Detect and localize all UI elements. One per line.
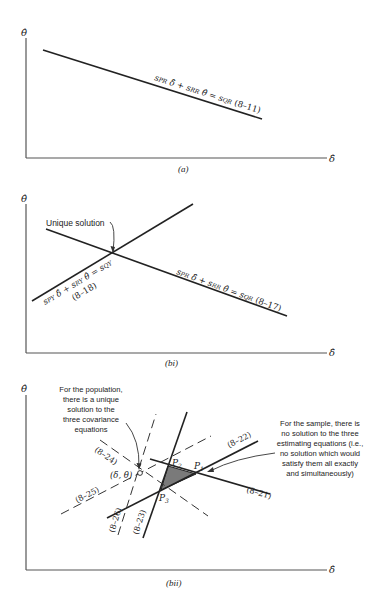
sample-note-line: and simultaneously): [286, 469, 354, 478]
vertex-p3-label: P3: [158, 493, 169, 504]
label-8-25: (8–25): [74, 485, 101, 505]
vertex-p1-label: P1: [193, 461, 204, 472]
equation-8-17: sPR δ̂ + sRR θ̂ = sQR (8–17): [175, 266, 283, 313]
population-note-line: there is a unique: [63, 395, 119, 404]
sample-note-line: no solution which would: [280, 449, 360, 458]
population-arrow: [126, 423, 139, 468]
panel-bi-x-axis-label: δ̂: [329, 347, 335, 358]
label-8-24: (8–24): [93, 445, 119, 467]
panel-a: θ̂ δ̂ sPR δ̂ + sRR θ̂ = sQR (8–11) (a): [21, 27, 335, 174]
population-point-label: (δ, θ): [110, 470, 132, 480]
population-note-line: solution to the: [67, 405, 114, 414]
unique-solution-label: Unique solution: [46, 218, 105, 228]
panel-bii-caption: (bii): [166, 578, 182, 588]
arrowhead-icon: [207, 467, 214, 472]
label-8-26: (8–26): [107, 507, 123, 534]
population-note-line: equations: [75, 425, 108, 434]
vertex-p2-label: P2: [171, 458, 182, 469]
equation-8-11: sPR δ̂ + sRR θ̂ = sQR (8–11): [153, 72, 262, 115]
panel-bi-caption: (bi): [165, 358, 178, 368]
sample-note: For the sample, there is no solution to …: [277, 419, 364, 478]
panel-a-x-axis-label: δ̂: [329, 153, 335, 164]
population-note-line: For the population,: [59, 385, 122, 394]
panel-bi: θ̂ δ̂ Unique solution sPR δ̂ + sRR θ̂ = …: [21, 193, 335, 368]
panel-bi-y-axis-label: θ̂: [21, 193, 27, 204]
line-8-11: [43, 50, 262, 119]
panel-a-y-axis-label: θ̂: [21, 27, 27, 38]
figure-canvas: θ̂ δ̂ sPR δ̂ + sRR θ̂ = sQR (8–11) (a) θ…: [0, 0, 379, 594]
label-8-22: (8–22): [226, 430, 253, 450]
population-note: For the population, there is a unique so…: [59, 385, 122, 434]
panel-a-caption: (a): [178, 164, 189, 174]
sample-note-line: satisfy them all exactly: [282, 459, 358, 468]
sample-arrow: [210, 453, 275, 471]
sample-note-line: no solution to the three: [281, 429, 358, 438]
panel-bii-x-axis-label: δ̂: [329, 564, 335, 575]
panel-bii-y-axis-label: θ̂: [21, 383, 27, 394]
population-note-line: three covariance: [63, 415, 119, 424]
panel-bii: θ̂ δ̂ (δ, θ) P2 P1 P3 (8–21) (8–22) (8–2…: [21, 383, 363, 588]
label-8-21: (8–21): [245, 485, 272, 501]
sample-note-line: For the sample, there is: [280, 419, 360, 428]
sample-note-line: estimating equations (i.e.,: [277, 439, 364, 448]
population-point: [138, 471, 143, 476]
